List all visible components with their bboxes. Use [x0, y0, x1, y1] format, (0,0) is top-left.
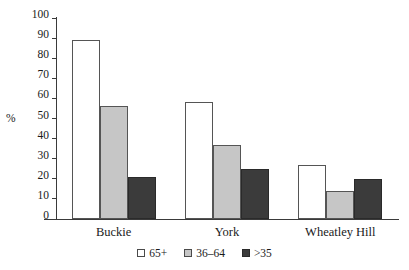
legend-swatch-icon: [184, 249, 192, 257]
bar: [185, 102, 213, 219]
x-axis-line: [44, 219, 399, 220]
y-axis-title: %: [6, 111, 16, 125]
plot-area: [57, 18, 397, 219]
y-axis-tick-label: 0: [43, 208, 49, 223]
bar: [72, 40, 100, 219]
y-axis-tick-label: 10: [38, 187, 50, 202]
y-axis-tick-label: 50: [38, 107, 50, 122]
bar: [354, 179, 382, 219]
bar: [100, 106, 128, 219]
bar: [128, 177, 156, 219]
y-axis-tick-label: 60: [38, 87, 50, 102]
y-axis-tick-label: 20: [38, 167, 50, 182]
y-axis-tick-label: 80: [38, 47, 50, 62]
y-axis-tick-label: 100: [32, 7, 49, 22]
bar-chart: % 1009080706050403020100 BuckieYorkWheat…: [0, 0, 409, 270]
legend-item[interactable]: 65+: [137, 246, 167, 260]
x-axis-category-label: York: [170, 224, 283, 240]
legend-item[interactable]: >35: [242, 246, 272, 260]
bar: [298, 165, 326, 219]
y-axis-tick-label: 30: [38, 147, 50, 162]
x-axis-category-label: Buckie: [57, 224, 170, 240]
legend-swatch-icon: [242, 249, 250, 257]
y-axis-tick-label: 40: [38, 127, 50, 142]
y-axis-tick-label: 70: [38, 67, 50, 82]
legend-swatch-icon: [137, 249, 145, 257]
legend-item[interactable]: 36–64: [184, 246, 225, 260]
y-axis-tick-label: 90: [38, 27, 50, 42]
legend-item-label: >35: [254, 246, 272, 260]
bar: [326, 191, 354, 219]
chart-legend: 65+36–64>35: [0, 246, 409, 260]
legend-item-label: 36–64: [196, 246, 225, 260]
bar: [213, 145, 241, 219]
bar: [241, 169, 269, 219]
legend-item-label: 65+: [149, 246, 167, 260]
x-axis-category-label: Wheatley Hill: [284, 224, 397, 240]
